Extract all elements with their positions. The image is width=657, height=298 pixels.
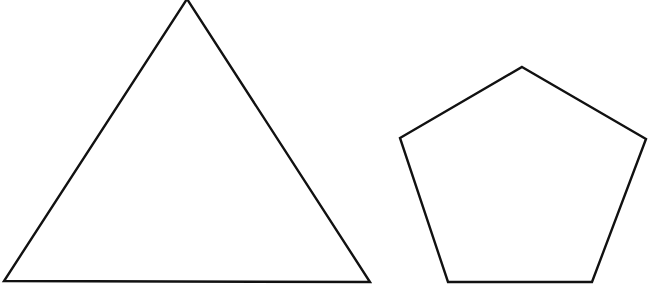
- pentagon-shape: [400, 67, 646, 282]
- triangle-shape: [4, 0, 370, 282]
- diagram-canvas: [0, 0, 657, 298]
- shapes-figure: [0, 0, 657, 298]
